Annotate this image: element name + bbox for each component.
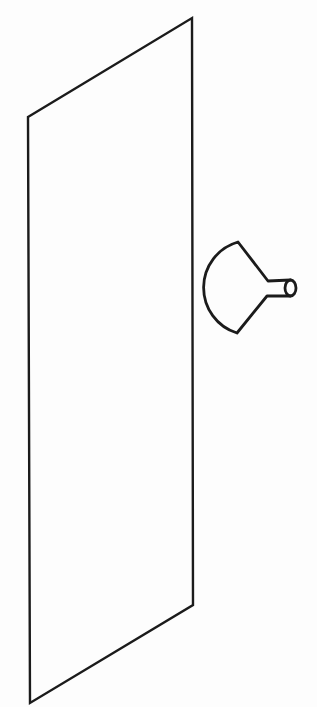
panel-outline <box>28 18 193 703</box>
diagram-canvas <box>0 0 317 707</box>
funnel-spout-opening <box>285 280 296 296</box>
line-drawing <box>0 0 317 707</box>
funnel-body-outline <box>204 242 291 333</box>
